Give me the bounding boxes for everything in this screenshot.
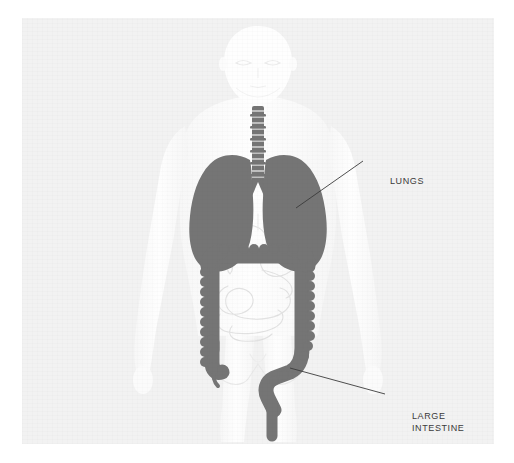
label-lungs: LUNGS xyxy=(390,175,424,187)
diagram-canvas: LUNGS LARGE INTESTINE xyxy=(22,18,494,444)
left-hand xyxy=(133,366,153,394)
right-ear xyxy=(289,57,297,71)
left-arm xyxy=(134,126,188,370)
right-hand xyxy=(363,366,383,394)
diagram-page: LUNGS LARGE INTESTINE xyxy=(0,0,514,463)
body-silhouette xyxy=(133,26,383,442)
right-arm xyxy=(328,126,382,370)
head xyxy=(224,26,292,102)
watermark-text xyxy=(0,0,514,10)
label-large-intestine: LARGE INTESTINE xyxy=(412,410,464,434)
anatomy-figure xyxy=(22,18,494,444)
left-ear xyxy=(219,57,227,71)
left-leg xyxy=(220,318,256,442)
